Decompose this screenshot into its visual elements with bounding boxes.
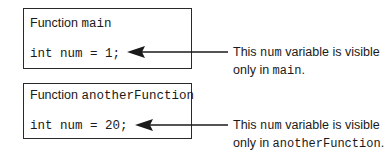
note-main: This num variable is visible only in mai… (233, 44, 380, 80)
note-another: This num variable is visible only in ano… (233, 117, 384, 153)
